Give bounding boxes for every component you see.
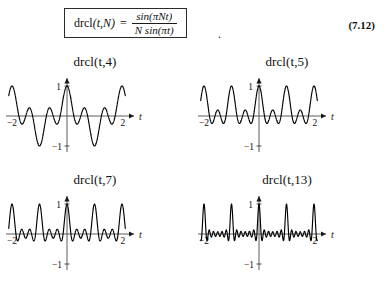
svg-text:2: 2	[121, 118, 126, 128]
svg-text:−2: −2	[199, 118, 209, 128]
equation-numerator: sin(πNt)	[133, 11, 175, 23]
equation-equals-sign: =	[120, 17, 127, 29]
svg-text:2: 2	[313, 118, 318, 128]
svg-text:t: t	[139, 229, 142, 240]
plot-canvas: −221−1t	[0, 186, 190, 286]
svg-text:1: 1	[248, 82, 253, 92]
plot-drcl-13: drcl(t,13) −221−1t	[192, 170, 382, 288]
equation-function-args: (t,N)	[93, 16, 115, 30]
equation-fraction: sin(πNt) N sin(πt)	[132, 11, 177, 36]
svg-text:1: 1	[248, 200, 253, 210]
svg-text:t: t	[331, 229, 334, 240]
equation-block: drcl(t,N) = sin(πNt) N sin(πt) . (7.12)	[0, 6, 387, 50]
equation-box: drcl(t,N) = sin(πNt) N sin(πt)	[64, 8, 187, 38]
equation-function-name: drcl	[74, 16, 93, 30]
svg-text:−1: −1	[244, 260, 254, 270]
plot-drcl-5: drcl(t,5) −221−1t	[192, 52, 382, 170]
svg-text:−1: −1	[244, 142, 254, 152]
plot-canvas: −221−1t	[192, 186, 382, 286]
plot-canvas: −221−1t	[0, 68, 190, 168]
plot-drcl-7: drcl(t,7) −221−1t	[0, 170, 190, 288]
equation-trailing-period: .	[218, 28, 221, 40]
svg-text:−1: −1	[52, 260, 62, 270]
plot-grid: drcl(t,4) −221−1t drcl(t,5) −221−1t drcl…	[0, 52, 387, 295]
svg-text:t: t	[331, 111, 334, 122]
plot-canvas: −221−1t	[192, 68, 382, 168]
equation-lhs: drcl(t,N)	[74, 17, 115, 29]
svg-text:−1: −1	[52, 142, 62, 152]
plot-drcl-4: drcl(t,4) −221−1t	[0, 52, 190, 170]
svg-text:2: 2	[121, 236, 126, 246]
svg-text:t: t	[139, 111, 142, 122]
svg-text:−2: −2	[7, 118, 17, 128]
equation-number: (7.12)	[348, 19, 375, 31]
svg-text:1: 1	[56, 200, 61, 210]
equation-denominator: N sin(πt)	[132, 24, 177, 36]
svg-text:1: 1	[56, 82, 61, 92]
